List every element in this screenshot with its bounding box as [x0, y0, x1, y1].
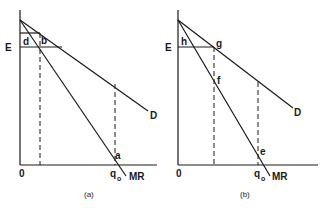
label-d: d	[23, 36, 29, 47]
caption-a: (a)	[84, 190, 94, 199]
demand-curve	[20, 20, 148, 111]
label-f: f	[217, 75, 221, 86]
demand-curve	[178, 20, 293, 108]
label-MR: MR	[272, 171, 288, 182]
label-MR: MR	[129, 171, 145, 182]
label-D: D	[150, 110, 157, 121]
label-origin: 0	[176, 168, 182, 179]
caption-b: (b)	[240, 190, 250, 199]
label-q-subscript: o	[117, 175, 121, 182]
diagram-canvas: E d b D a 0 q o MR (a) E h g f D e 0 q o…	[0, 0, 328, 208]
label-e: e	[260, 146, 266, 157]
label-E: E	[165, 42, 172, 53]
marginal-revenue-curve	[20, 20, 126, 176]
label-q: q	[110, 168, 116, 179]
label-h: h	[181, 36, 187, 47]
label-origin: 0	[19, 168, 25, 179]
panel-b: E h g f D e 0 q o MR (b)	[165, 10, 318, 199]
label-q: q	[254, 168, 260, 179]
marginal-revenue-curve	[178, 20, 270, 176]
label-E: E	[5, 42, 12, 53]
label-g: g	[216, 38, 222, 49]
label-q-subscript: o	[261, 175, 265, 182]
panel-a: E d b D a 0 q o MR (a)	[5, 10, 157, 199]
label-b: b	[41, 35, 47, 46]
label-a: a	[115, 150, 121, 161]
label-D: D	[294, 107, 301, 118]
